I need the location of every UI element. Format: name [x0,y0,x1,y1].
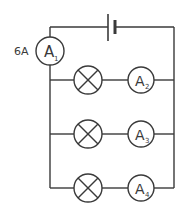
branch-1: A 2 [50,66,174,94]
circuit-diagram: A 1 6A A 2 A 3 [0,0,182,211]
svg-text:4: 4 [145,191,150,199]
ammeter-a1-subscript: 1 [54,55,58,63]
svg-text:A: A [135,127,145,143]
ammeter-a4: A 4 [128,175,154,201]
branch-2: A 3 [50,120,174,148]
svg-text:A: A [135,181,145,197]
svg-text:A: A [135,73,145,89]
lamp-icon [74,66,102,94]
ammeter-a2: A 2 [128,67,154,93]
battery-icon [108,14,115,41]
svg-text:3: 3 [145,137,149,145]
lamp-icon [74,120,102,148]
ammeter-a1: A 1 [36,37,64,65]
ammeter-a1-reading: 6A [14,45,29,58]
lamp-icon [74,174,102,202]
branch-3: A 4 [50,174,174,202]
ammeter-a3: A 3 [128,121,154,147]
svg-text:2: 2 [145,83,149,91]
